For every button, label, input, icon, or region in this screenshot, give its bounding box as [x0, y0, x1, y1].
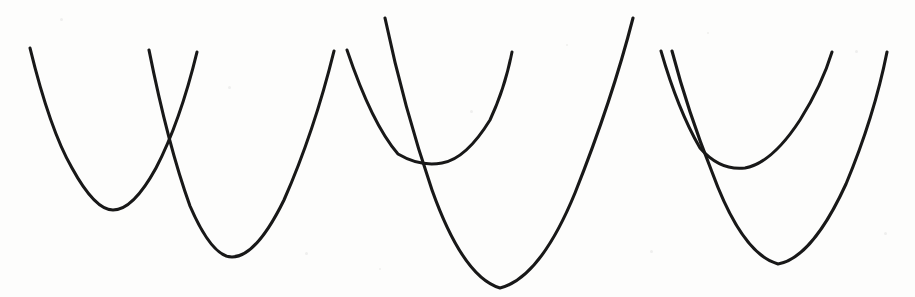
parabola-figure-svg: [0, 0, 915, 297]
figure-container: [0, 0, 915, 297]
